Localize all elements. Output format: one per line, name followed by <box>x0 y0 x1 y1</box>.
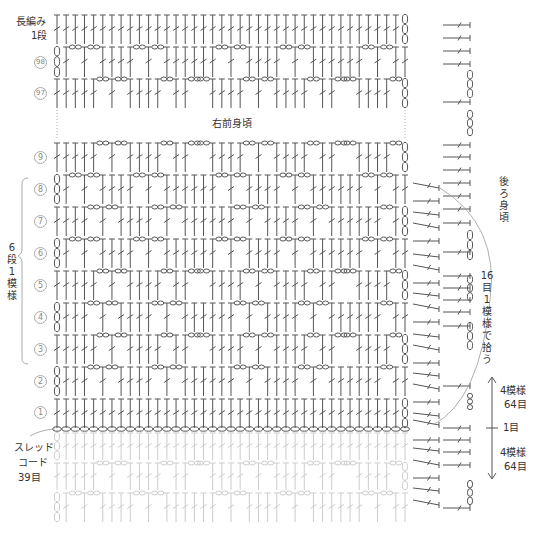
pickup-label: 16目1模様で拾う <box>480 270 494 366</box>
dc-one-row-label-1: 長編み <box>16 16 46 28</box>
row-number-6: 6 <box>34 247 47 260</box>
row-97 <box>54 77 408 108</box>
row-8 <box>54 173 408 204</box>
row-number-8: 8 <box>34 183 47 196</box>
row-3 <box>54 333 408 364</box>
row-6 <box>54 237 408 268</box>
dc-1-row <box>54 14 408 44</box>
back-body-label: 後ろ身頃 <box>498 176 510 224</box>
faded-row-1 <box>54 432 408 460</box>
row-9 <box>54 141 408 172</box>
row-2 <box>54 365 408 396</box>
row-number-9: 9 <box>34 151 47 164</box>
dc-one-row-label-2: 1段 <box>31 30 47 42</box>
foundation-label-1: スレッド <box>14 442 54 454</box>
measure-top-label-2: 64目 <box>504 399 527 411</box>
row-number-4: 4 <box>34 311 47 324</box>
measure-mid-label: 1目 <box>503 422 519 434</box>
foundation-label-3: 39目 <box>18 472 41 484</box>
row-number-98: 98 <box>34 56 47 69</box>
row-number-1: 1 <box>34 406 47 419</box>
row-number-97: 97 <box>34 87 47 100</box>
row-number-5: 5 <box>34 279 47 292</box>
faded-row-3 <box>54 491 408 522</box>
repeat-label: 6段1模様 <box>6 242 18 302</box>
row-number-3: 3 <box>34 343 47 356</box>
row-4 <box>54 301 408 332</box>
measure-top-label-1: 4模様 <box>500 385 526 397</box>
right-front-label: 右前身頃 <box>212 118 252 130</box>
foundation-label-2: コード <box>18 457 48 469</box>
measure-bottom-label-2: 64目 <box>504 461 527 473</box>
row-number-7: 7 <box>34 215 47 228</box>
measure-bottom-label-1: 4模様 <box>500 447 526 459</box>
right-edge-column-2 <box>443 22 473 511</box>
row-number-2: 2 <box>34 375 47 388</box>
row-7 <box>54 205 408 236</box>
repeat-brace <box>18 178 28 364</box>
faded-row-2 <box>54 461 408 490</box>
crochet-chart <box>0 0 538 542</box>
row-5 <box>54 269 408 300</box>
measurement-arrows <box>486 377 498 479</box>
right-edge-column-1 <box>413 183 439 508</box>
row-98 <box>54 45 408 77</box>
thread-cord-foundation <box>30 427 409 436</box>
row-1 <box>54 398 408 428</box>
